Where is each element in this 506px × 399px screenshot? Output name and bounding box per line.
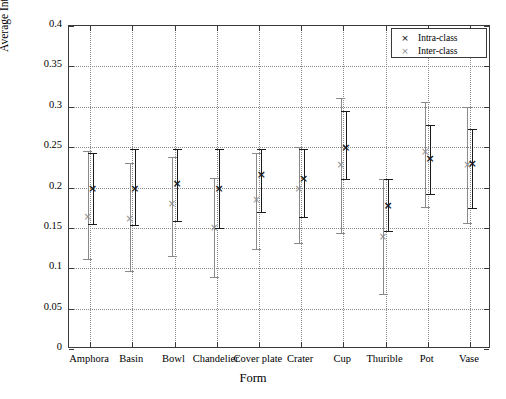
data-point-marker: × [257,168,266,179]
y-tick-label: 0.15 [0,220,62,231]
data-point-marker: × [299,172,308,183]
error-bar-cap-lower [88,224,97,225]
series-intra-class: ×××××××××× [69,26,489,347]
y-tick-label: 0.3 [0,99,62,110]
data-point-marker: × [383,200,392,211]
data-point-marker: × [172,178,181,189]
error-bar-cap-upper [215,149,224,150]
data-point-marker: × [88,183,97,194]
error-bar-cap-lower [215,228,224,229]
error-bar-cap-lower [299,217,308,218]
y-tick-right [484,349,489,350]
error-bar-cap-upper [257,149,266,150]
error-bar-cap-lower [426,194,435,195]
chart-legend: × Intra-class × Inter-class [391,28,487,58]
error-bar-cap-upper [426,125,435,126]
legend-marker-intra-icon: × [392,33,418,43]
error-bar-cap-upper [299,149,308,150]
legend-label-inter: Inter-class [418,46,457,56]
legend-label-intra: Intra-class [418,33,458,43]
data-point-marker: × [426,153,435,164]
error-bar-cap-lower [468,208,477,209]
y-tick-label: 0.1 [0,260,62,271]
error-bar-cap-lower [257,212,266,213]
data-point-marker: × [468,158,477,169]
error-bar-cap-lower [173,221,182,222]
plot-area: ×××××××××× ×××××××××× [68,25,490,348]
error-bar-cap-upper [341,111,350,112]
y-tick-label: 0.35 [0,58,62,69]
error-bar-cap-upper [468,129,477,130]
data-point-marker: × [215,183,224,194]
error-bar-cap-lower [384,231,393,232]
legend-item-inter-class: × Inter-class [392,44,486,57]
y-tick-label: 0.25 [0,139,62,150]
data-point-marker: × [341,142,350,153]
y-tick [69,349,74,350]
data-point-marker: × [130,182,139,193]
legend-item-intra-class: × Intra-class [392,31,486,44]
error-bar-cap-lower [341,179,350,180]
chart-figure: Average Intra- and Inter-class distances… [0,0,506,399]
x-tick-label: Vase [429,353,506,364]
y-tick-label: 0.4 [0,18,62,29]
error-bar-cap-upper [384,179,393,180]
error-bar-cap-upper [130,149,139,150]
y-tick-label: 0 [0,341,62,352]
x-axis-title: Form [0,371,506,386]
error-bar-cap-upper [173,149,182,150]
error-bar-cap-upper [88,153,97,154]
y-tick-label: 0.05 [0,301,62,312]
error-bar-cap-lower [130,225,139,226]
y-tick-label: 0.2 [0,180,62,191]
legend-marker-inter-icon: × [392,46,418,56]
